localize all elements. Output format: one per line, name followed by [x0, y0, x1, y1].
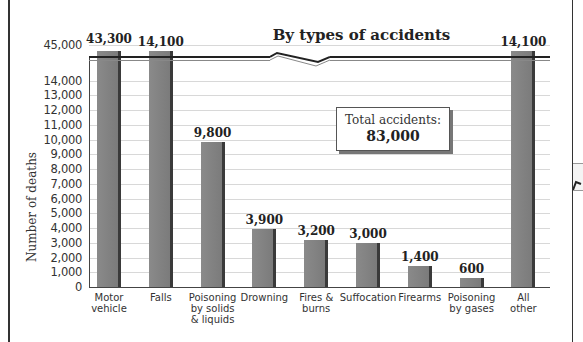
bar: [460, 278, 484, 287]
frame-left-border: [8, 0, 10, 342]
axis-break-zigzag-icon: [270, 48, 330, 68]
bar: [149, 51, 173, 287]
bar-value-label: 600: [437, 262, 507, 276]
bar-value-label: 9,800: [178, 126, 248, 140]
bar: [304, 240, 328, 287]
total-accidents-label: Total accidents:: [337, 113, 449, 127]
y-tick-label: 10,000: [30, 134, 82, 146]
y-tick-label: 0: [30, 281, 82, 293]
y-tick-label: 14,000: [30, 75, 82, 87]
total-accidents-value: 83,000: [337, 128, 449, 144]
y-tick-label: 1,000: [30, 266, 82, 278]
y-tick-label: 7,000: [30, 178, 82, 190]
y-axis: [89, 57, 90, 288]
y-tick-label: 2,000: [30, 252, 82, 264]
y-tick-label: 12,000: [30, 104, 82, 116]
bar-value-label: 14,100: [126, 35, 196, 49]
bar: [356, 243, 380, 287]
y-tick-label: 3,000: [30, 237, 82, 249]
y-tick-label: 6,000: [30, 193, 82, 205]
y-tick-label: 11,000: [30, 119, 82, 131]
y-tick-label: 8,000: [30, 163, 82, 175]
bar-value-label: 3,000: [333, 227, 403, 241]
y-tick-label: 4,000: [30, 222, 82, 234]
adjacent-figure-mark: [573, 180, 583, 190]
y-tick-label: 9,000: [30, 148, 82, 160]
y-tick-label: 13,000: [30, 89, 82, 101]
bar-value-label: 14,100: [488, 35, 558, 49]
y-tick-label: 5,000: [30, 207, 82, 219]
bar: [97, 51, 121, 287]
bar: [201, 142, 225, 287]
bar: [408, 266, 432, 287]
x-category-label: All other: [490, 292, 556, 314]
bar: [511, 51, 535, 287]
total-accidents-callout: Total accidents: 83,000: [336, 107, 450, 151]
x-axis: [89, 287, 550, 288]
bar: [252, 229, 276, 287]
